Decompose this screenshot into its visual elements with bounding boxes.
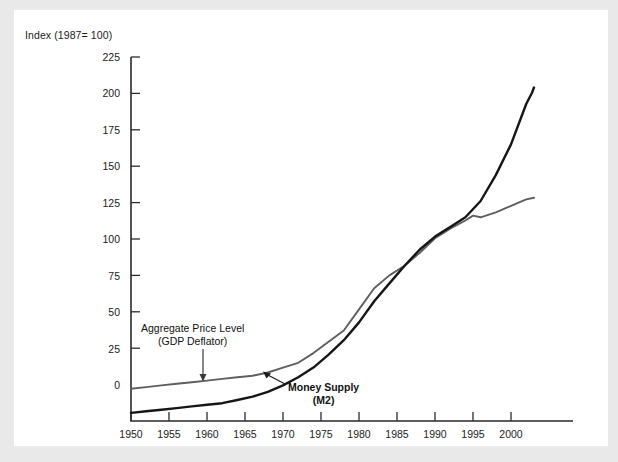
figure-page: Index (1987= 100) 225 200 175 150 125 10… (0, 0, 618, 462)
y-axis-ticks (131, 57, 140, 348)
annotation-money-arrow-icon (263, 372, 285, 385)
axis-lines (131, 57, 573, 421)
chart-svg (0, 0, 618, 462)
series-line-money-supply-2 (131, 88, 534, 413)
annotation-deflator-arrow-icon (200, 349, 207, 382)
line-chart: Index (1987= 100) 225 200 175 150 125 10… (0, 0, 618, 462)
series-line-gdp-deflator (131, 198, 534, 389)
x-axis-ticks (131, 412, 511, 421)
